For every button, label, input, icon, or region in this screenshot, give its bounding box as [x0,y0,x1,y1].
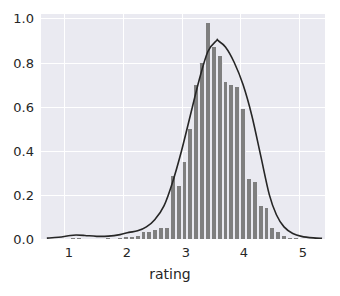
y-tick-label-4: 0.8 [0,55,34,70]
x-tick-label-5: 5 [288,245,318,260]
x-tick-label-4: 4 [229,245,259,260]
x-tick-label-1: 1 [54,245,84,260]
x-axis-title: rating [0,266,340,282]
histogram-figure: 0.0 0.2 0.4 0.6 0.8 1.0 1 2 3 4 5 rating [0,0,340,296]
kde-curve [41,14,325,239]
x-tick-label-2: 2 [112,245,142,260]
y-tick-label-0: 0.0 [0,232,34,247]
plot-area [41,14,325,239]
y-tick-label-5: 1.0 [0,11,34,26]
x-tick-label-3: 3 [171,245,201,260]
y-tick-label-3: 0.6 [0,99,34,114]
y-tick-label-1: 0.2 [0,187,34,202]
y-tick-label-2: 0.4 [0,143,34,158]
